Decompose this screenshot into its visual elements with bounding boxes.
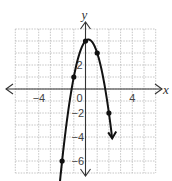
x-tick-label: 4 [129, 92, 135, 104]
data-point [95, 50, 100, 55]
axes [6, 22, 162, 176]
x-tick-label: 0 [77, 92, 83, 104]
y-tick-label: −2 [72, 107, 85, 119]
x-axis-label: x [162, 82, 169, 97]
y-axis-label: y [80, 7, 88, 22]
data-point [71, 74, 76, 79]
data-point [106, 110, 111, 115]
data-point [60, 158, 65, 163]
x-tick-label: −4 [33, 92, 46, 104]
y-tick-label: −6 [72, 155, 85, 167]
y-tick-label: −4 [72, 131, 85, 143]
data-point [83, 38, 88, 43]
parabola-graph: −4042−2−4−6 x y [0, 0, 172, 181]
